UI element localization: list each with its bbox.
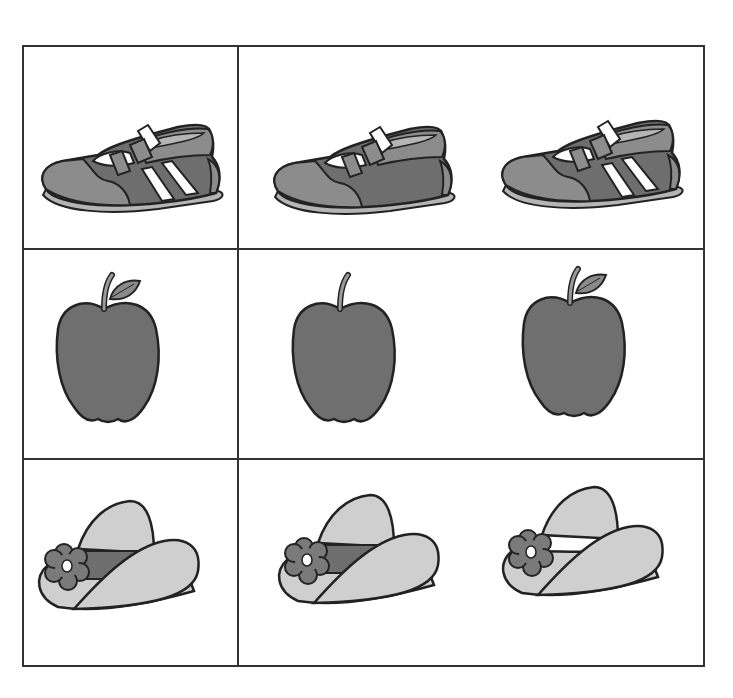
apple-choice-2-with-leaf[interactable] (520, 263, 630, 423)
hat-choice-2-no-band[interactable] (498, 481, 678, 611)
hat-example[interactable] (34, 495, 214, 625)
hat-choice-1-with-band[interactable] (274, 489, 454, 619)
column-divider (237, 47, 239, 665)
apple-choice-1-no-leaf[interactable] (290, 269, 400, 429)
shoe-choice-1-no-stripes[interactable] (270, 119, 460, 219)
shoe-choice-2-striped[interactable] (498, 113, 688, 213)
shoe-example[interactable] (38, 117, 228, 217)
worksheet-grid (22, 45, 705, 667)
row-divider-1 (24, 248, 703, 250)
apple-example[interactable] (54, 269, 164, 429)
row-divider-2 (24, 458, 703, 460)
